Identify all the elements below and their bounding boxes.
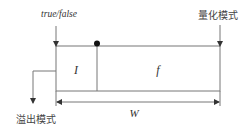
overflow-mode-label: 溢出模式 [16, 113, 56, 125]
sign-mode-label: true/false [41, 9, 77, 19]
fixed-point-format-diagram: I f true/false 量化模式 溢出模式 W [0, 0, 251, 130]
width-label: W [129, 107, 139, 119]
overflow-mode-arrow [33, 71, 56, 103]
integer-field-label: I [73, 63, 79, 77]
quantization-mode-label: 量化模式 [198, 9, 238, 21]
register-box [56, 46, 220, 91]
binary-point-dot [94, 41, 100, 47]
fraction-field-label: f [156, 63, 161, 77]
